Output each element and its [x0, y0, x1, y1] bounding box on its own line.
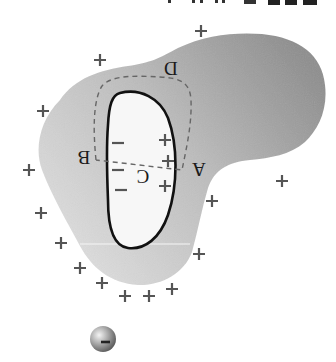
- plus-sign: [35, 207, 47, 219]
- plus-sign: [206, 195, 218, 207]
- plus-sign: [195, 25, 207, 37]
- plus-sign: [37, 105, 49, 117]
- plus-sign: [94, 54, 106, 66]
- conductor-cavity-figure: D B A C: [0, 0, 336, 362]
- plus-sign: [276, 175, 288, 187]
- label-d: D: [164, 58, 178, 79]
- plus-sign: [193, 248, 205, 260]
- plus-sign: [74, 262, 86, 274]
- plus-sign: [96, 277, 108, 289]
- electron-sphere: [90, 326, 116, 352]
- electron: [90, 326, 116, 352]
- plus-sign: [23, 164, 35, 176]
- plus-sign: [143, 290, 155, 302]
- top-cutoff-text: [168, 0, 317, 5]
- plus-sign: [119, 290, 131, 302]
- label-a: A: [192, 159, 206, 180]
- label-b: B: [78, 147, 91, 168]
- plus-sign: [55, 237, 67, 249]
- plus-sign: [166, 283, 178, 295]
- label-c: C: [137, 166, 150, 187]
